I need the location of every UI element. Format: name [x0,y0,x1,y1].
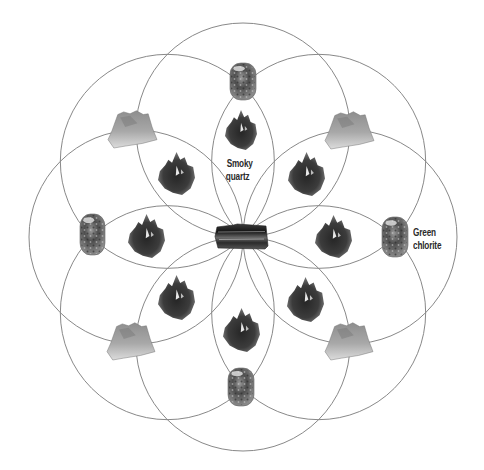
green-chlorite-stone-icon [80,214,105,255]
smoky-quartz-crystal-icon [287,277,324,322]
smoky-quartz-crystal-icon [223,308,260,352]
smoky-quartz-crystal-icon [128,214,165,258]
circle-grid [0,0,484,470]
green-chlorite-label-line2: chlorite [413,239,441,252]
green-chlorite-stone-icon [228,368,254,406]
smoky-quartz-crystal-icon [158,152,195,195]
mineral-cluster-icon [108,111,157,148]
mineral-cluster-icon [325,112,374,149]
smoky-quartz-crystal-icon [225,110,257,150]
smoky-quartz-label-line2: quartz [225,170,258,183]
crystal-grid-diagram: Smoky quartz Green chlorite [0,0,484,470]
black-tourmaline-icon [215,224,268,249]
green-chlorite-label-line1: Green [413,226,441,239]
smoky-quartz-crystal-icon [158,275,195,320]
smoky-quartz-label-line1: Smoky [225,157,258,170]
smoky-quartz-label: Smoky quartz [225,157,258,183]
green-chlorite-label: Green chlorite [413,226,441,252]
green-chlorite-stone-icon [382,217,408,257]
smoky-quartz-crystal-icon [288,152,325,196]
mineral-cluster-icon [107,323,155,360]
smoky-quartz-crystal-icon [315,215,352,258]
mineral-cluster-icon [325,323,373,360]
green-chlorite-stone-icon [230,63,256,100]
